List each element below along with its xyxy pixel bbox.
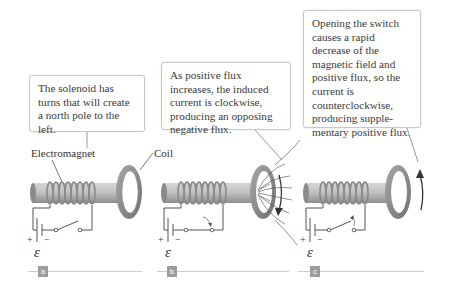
callout-pointer-b — [255, 130, 282, 160]
battery-plus-a: + — [27, 234, 33, 245]
emf-symbol-c: ε — [307, 244, 313, 261]
battery-plus-c: + — [300, 234, 306, 245]
emf-symbol-b: ε — [165, 244, 171, 261]
panel-b-tag: b — [167, 266, 177, 277]
emf-symbol-a: ε — [34, 244, 40, 261]
battery-minus-c: − — [317, 234, 323, 245]
panel-a-apparatus — [30, 165, 142, 242]
battery-minus-b: − — [175, 234, 181, 245]
diagram-drawing — [0, 0, 455, 294]
panel-c-apparatus — [303, 165, 424, 242]
battery-minus-a: − — [44, 234, 50, 245]
panel-a-tag: a — [38, 266, 48, 277]
battery-plus-b: + — [158, 234, 164, 245]
panel-c-tag: c — [310, 266, 320, 277]
panel-b-apparatus — [161, 140, 300, 245]
callout-pointer-c — [407, 128, 418, 162]
